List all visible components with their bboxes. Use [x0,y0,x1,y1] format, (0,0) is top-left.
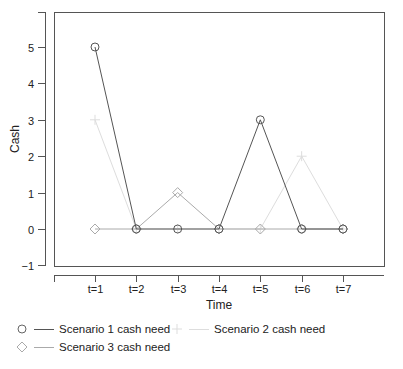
legend-item: Scenario 3 cash need [17,341,170,353]
y-tick-label: 0 [28,224,34,236]
y-tick-label: 5 [28,42,34,54]
x-tick-label: t=3 [171,283,187,295]
y-axis: −1012345 [21,12,45,272]
legend-label: Scenario 2 cash need [214,323,325,335]
series-layer [90,43,348,234]
y-axis-label: Cash [8,125,22,153]
x-tick-label: t=4 [212,283,228,295]
legend-label: Scenario 1 cash need [59,323,170,335]
plus-marker [90,115,100,125]
x-tick-label: t=1 [88,283,104,295]
x-axis: t=1t=2t=3t=4t=5t=6t=7 [54,276,384,296]
x-tick-label: t=6 [295,283,311,295]
series-1 [91,43,347,233]
legend: Scenario 1 cash needScenario 2 cash need… [17,323,325,353]
y-tick-label: 2 [28,151,34,163]
plus-marker [297,151,307,161]
x-tick-label: t=5 [253,283,269,295]
legend-item: Scenario 2 cash need [172,323,325,335]
y-tick-label: 1 [28,188,34,200]
x-tick-label: t=2 [129,283,145,295]
legend-label: Scenario 3 cash need [59,341,170,353]
diamond-marker [17,342,27,352]
y-tick-label: 3 [28,115,34,127]
legend-item: Scenario 1 cash need [18,323,170,335]
y-tick-label: 4 [28,78,34,90]
line-chart: −1012345 t=1t=2t=3t=4t=5t=6t=7 Cash Time… [0,0,403,369]
circle-marker [18,325,26,333]
x-axis-label: Time [206,298,233,312]
y-tick-label: −1 [21,260,34,272]
plus-marker [172,324,182,334]
series-line [95,47,343,229]
x-tick-label: t=7 [336,283,352,295]
series-2 [90,115,348,234]
